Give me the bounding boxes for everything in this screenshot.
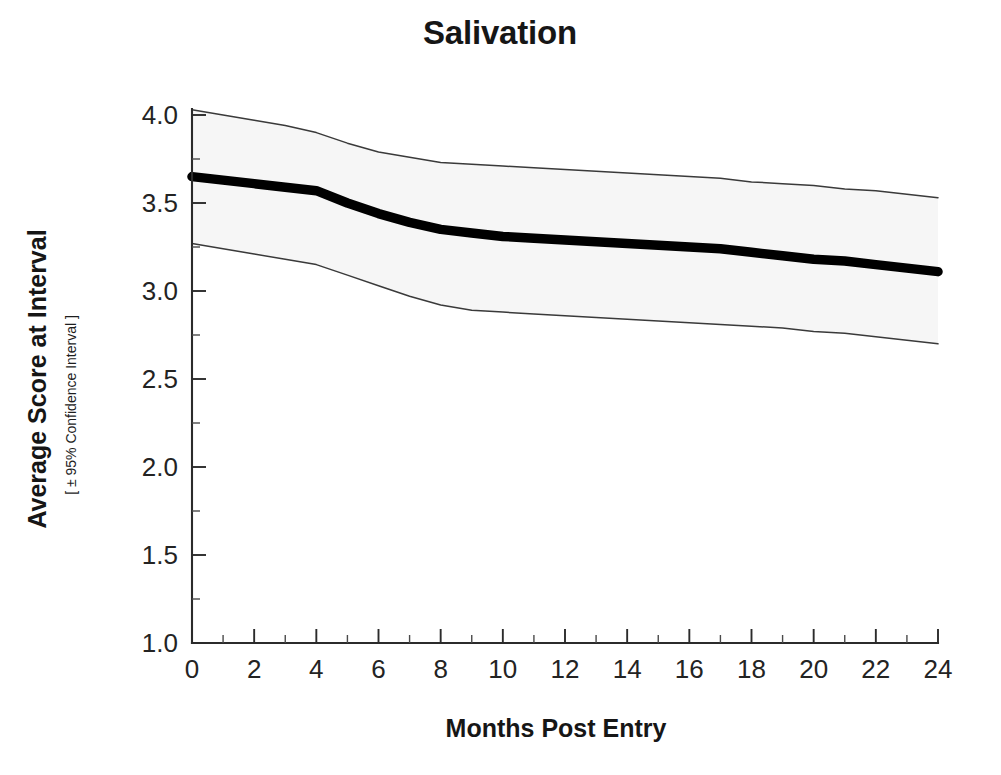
x-tick-label: 18 (737, 654, 766, 684)
x-tick-label: 4 (309, 654, 323, 684)
x-tick-label: 8 (433, 654, 447, 684)
x-tick-label: 12 (551, 654, 580, 684)
chart-figure: Salivation 1.01.52.02.53.03.54.0 0246810… (0, 0, 1001, 775)
x-tick-label: 6 (371, 654, 385, 684)
salivation-line-chart: Salivation 1.01.52.02.53.03.54.0 0246810… (0, 0, 1001, 775)
x-axis-tick-labels: 024681012141618202224 (185, 654, 953, 684)
x-axis-title: Months Post Entry (446, 714, 667, 742)
y-axis-subtitle: [ ± 95% Confidence Interval ] (63, 315, 79, 495)
y-tick-label: 3.5 (142, 188, 178, 218)
y-tick-label: 2.5 (142, 364, 178, 394)
y-tick-label: 1.0 (142, 628, 178, 658)
chart-title: Salivation (423, 14, 577, 51)
x-tick-label: 2 (247, 654, 261, 684)
x-tick-label: 22 (861, 654, 890, 684)
y-tick-label: 1.5 (142, 540, 178, 570)
x-tick-label: 0 (185, 654, 199, 684)
x-tick-label: 10 (488, 654, 517, 684)
x-tick-label: 16 (675, 654, 704, 684)
y-axis-title: Average Score at Interval (23, 229, 51, 528)
x-tick-label: 24 (924, 654, 953, 684)
x-axis-ticks (192, 629, 938, 643)
y-axis-tick-labels: 1.01.52.02.53.03.54.0 (142, 100, 178, 658)
y-tick-label: 3.0 (142, 276, 178, 306)
x-tick-label: 20 (799, 654, 828, 684)
y-tick-label: 4.0 (142, 100, 178, 130)
confidence-band (192, 110, 938, 344)
y-tick-label: 2.0 (142, 452, 178, 482)
x-tick-label: 14 (613, 654, 642, 684)
